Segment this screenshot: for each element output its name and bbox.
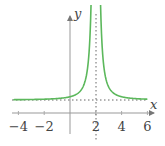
x-axis-label: x bbox=[150, 97, 158, 112]
x-tick-label: 6 bbox=[143, 119, 151, 134]
x-tick-label: −2 bbox=[35, 119, 54, 134]
y-axis-label: y bbox=[73, 6, 82, 21]
curve-right-branch bbox=[101, 5, 148, 99]
x-tick-label: −4 bbox=[9, 119, 28, 134]
x-tick-label: 2 bbox=[92, 119, 100, 134]
chart: x y −4−2246 bbox=[0, 0, 165, 146]
x-tick-labels: −4−2246 bbox=[9, 119, 152, 134]
x-tick-label: 4 bbox=[117, 119, 125, 134]
